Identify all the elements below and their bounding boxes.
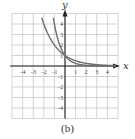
axes: [10, 10, 120, 119]
y-tick-label: −3: [57, 95, 63, 101]
y-tick-label: 3: [60, 32, 63, 38]
y-tick-label: −2: [57, 84, 63, 90]
y-tick-label: 4: [60, 21, 63, 27]
y-axis-label: y: [61, 0, 68, 10]
y-tick-label: 1: [60, 53, 63, 59]
x-axis-label: x: [123, 60, 129, 71]
figure-caption: (b): [0, 122, 135, 134]
y-tick-label: 2: [60, 42, 63, 48]
y-tick-label: −4: [57, 105, 63, 111]
x-tick-label: −4: [20, 69, 26, 75]
x-tick-label: 1: [74, 69, 77, 75]
y-axis-arrow-icon: [63, 10, 68, 17]
exponential-curve: [42, 18, 116, 66]
x-tick-label: 3: [95, 69, 98, 75]
x-tick-label: 2: [85, 69, 88, 75]
y-tick-label: −1: [57, 74, 63, 80]
x-tick-label: −2: [41, 69, 47, 75]
exponential-graph: xy−4−3−2−11234−4−3−2−11234: [0, 0, 135, 122]
x-tick-label: −3: [30, 69, 36, 75]
x-tick-label: 4: [106, 69, 109, 75]
curves: [42, 18, 116, 66]
